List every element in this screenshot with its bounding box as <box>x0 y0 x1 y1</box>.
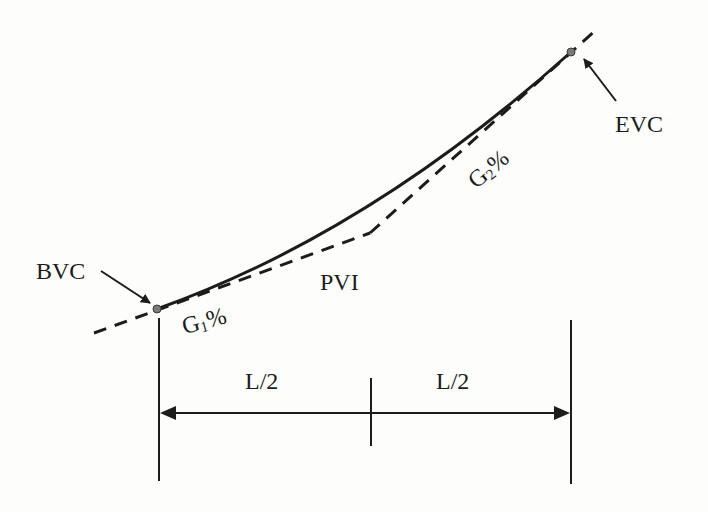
half-length-left-label: L/2 <box>245 369 278 393</box>
bvc-label: BVC <box>36 259 85 283</box>
evc-point <box>567 48 575 56</box>
half-length-right-label: L/2 <box>436 369 469 393</box>
dimension-arrowhead-left <box>160 406 176 420</box>
vertical-curve-drawing <box>0 0 708 512</box>
pvi-label: PVI <box>320 270 359 294</box>
bvc-point <box>153 305 161 313</box>
bvc-callout-arrow <box>101 271 150 303</box>
diagram-canvas: BVC EVC PVI G1% G2% L/2 L/2 <box>0 0 708 512</box>
vertical-curve <box>157 52 571 309</box>
evc-callout-arrow <box>584 59 616 101</box>
dimension-arrowhead-right <box>554 406 570 420</box>
evc-label: EVC <box>615 112 663 136</box>
